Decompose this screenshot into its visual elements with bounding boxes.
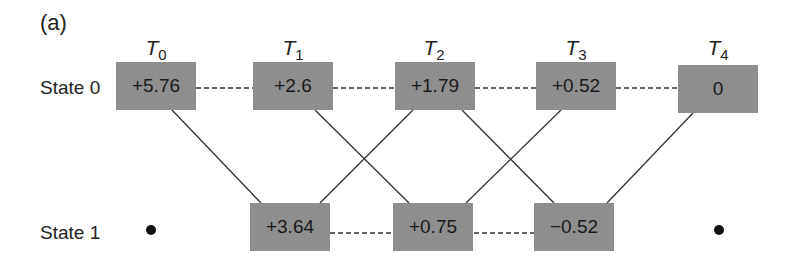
node-state0-t0: +5.76 bbox=[116, 62, 196, 110]
time-label-t2: T2 bbox=[394, 36, 474, 63]
time-label-t4: T4 bbox=[678, 36, 758, 63]
solid-edge bbox=[172, 110, 261, 203]
node-state1-t3: −0.52 bbox=[534, 203, 614, 251]
panel-label: (a) bbox=[40, 10, 67, 36]
solid-edge bbox=[462, 110, 554, 203]
node-state0-t1: +2.6 bbox=[253, 62, 333, 110]
state-label-0: State 0 bbox=[40, 77, 100, 99]
solid-edge bbox=[466, 110, 561, 203]
empty-node-state1-t4 bbox=[714, 225, 724, 235]
node-state1-t2: +0.75 bbox=[393, 203, 473, 251]
node-state0-t2: +1.79 bbox=[395, 62, 475, 110]
time-label-t0: T0 bbox=[116, 36, 196, 63]
solid-edge bbox=[320, 110, 413, 203]
time-label-t3: T3 bbox=[536, 36, 616, 63]
state-label-1: State 1 bbox=[40, 222, 100, 244]
node-state0-t4: 0 bbox=[678, 65, 758, 113]
empty-node-state1-t0 bbox=[146, 225, 156, 235]
solid-edge bbox=[607, 113, 693, 203]
node-state0-t3: +0.52 bbox=[536, 62, 616, 110]
node-state1-t1: +3.64 bbox=[250, 203, 330, 251]
time-label-t1: T1 bbox=[253, 36, 333, 63]
solid-edge bbox=[315, 110, 409, 203]
